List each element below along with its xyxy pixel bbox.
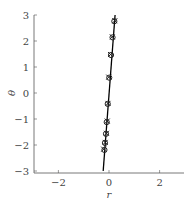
x-tick-label: 0 [106,177,112,188]
y-axis-label: θ [6,90,17,96]
plot-area [101,15,117,171]
y-tick-label: 1 [23,62,29,73]
x-axis-label: r [107,189,113,200]
y-tick-label: −2 [14,140,29,151]
y-tick-label: −1 [14,114,29,125]
y-tick-label: 2 [23,36,29,47]
y-tick-label: 3 [23,10,29,21]
y-tick-label: −3 [14,166,29,177]
y-ticks: −3−2−10123 [14,10,37,177]
y-tick-label: 0 [23,88,29,99]
chart: −3−2−10123 −202 r θ [0,0,195,204]
x-tick-label: 2 [156,177,162,188]
x-tick-label: −2 [51,177,66,188]
